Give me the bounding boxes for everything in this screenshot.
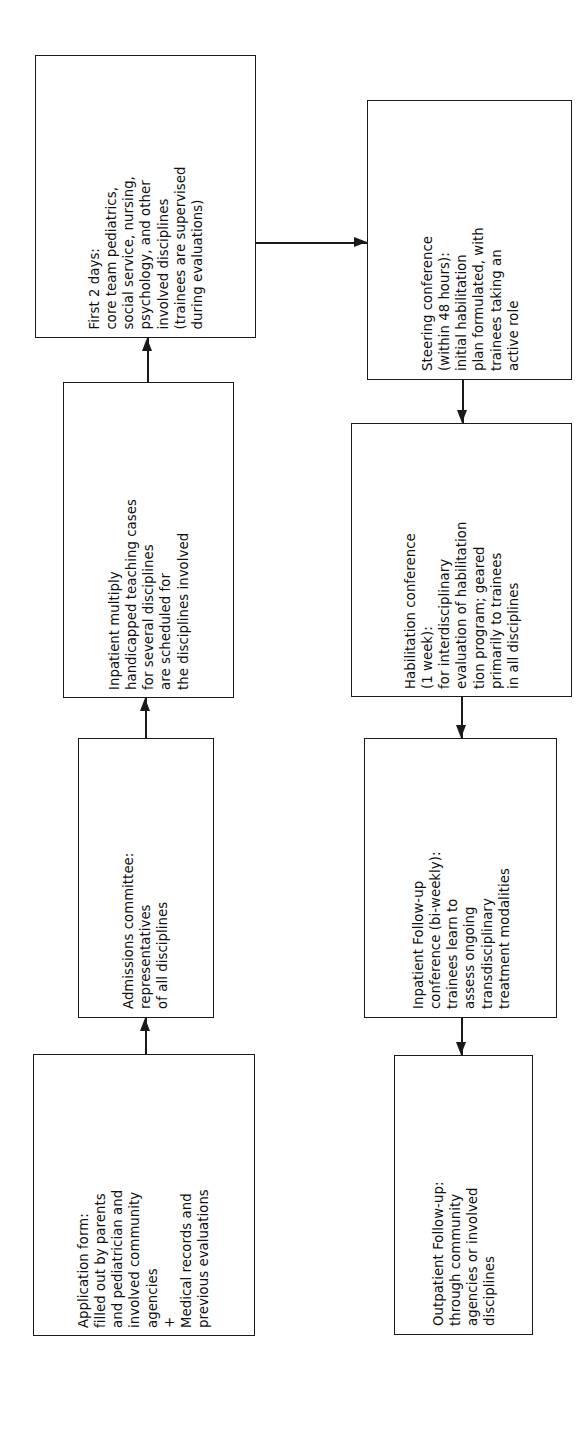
- admissions-committee-label: Admissions committee: representatives of…: [120, 747, 171, 1009]
- arrowhead-inpatient-to-outpatient-follow-up-icon: [456, 1042, 466, 1055]
- steering-conference-label: Steering conference (within 48 hours): i…: [418, 109, 521, 371]
- outpatient-follow-up-box: Outpatient Follow-up: through community …: [394, 1055, 533, 1335]
- arrowhead-steering-to-habilitation-icon: [457, 410, 467, 423]
- steering-conference-box: Steering conference (within 48 hours): i…: [367, 100, 572, 380]
- inpatient-teaching-cases-box: Inpatient multiply handicapped teaching …: [63, 382, 234, 698]
- application-form-box: Application form: filled out by parents …: [33, 1054, 255, 1336]
- habilitation-conference-box: Habilitation conference (1 week): for in…: [351, 423, 572, 697]
- connector-first-2-days-to-steering: [256, 242, 367, 244]
- flowchart-canvas: First 2 days: core team pediatrics, soci…: [0, 0, 576, 1446]
- admissions-committee-box: Admissions committee: representatives of…: [78, 738, 214, 1018]
- arrowhead-admissions-to-teaching-cases-icon: [140, 698, 150, 711]
- arrowhead-teaching-cases-to-first-2-days-icon: [142, 338, 152, 351]
- inpatient-teaching-cases-label: Inpatient multiply handicapped teaching …: [106, 390, 192, 690]
- arrowhead-first-2-days-to-steering-icon: [354, 237, 367, 247]
- inpatient-follow-up-label: Inpatient Follow-up conference (bi-weekl…: [409, 747, 512, 1009]
- first-2-days-box: First 2 days: core team pediatrics, soci…: [35, 55, 256, 338]
- habilitation-conference-label: Habilitation conference (1 week): for in…: [401, 431, 521, 689]
- first-2-days-label: First 2 days: core team pediatrics, soci…: [85, 64, 205, 329]
- outpatient-follow-up-label: Outpatient Follow-up: through community …: [429, 1064, 498, 1326]
- application-form-label: Application form: filled out by parents …: [75, 1062, 212, 1328]
- arrowhead-habilitation-to-inpatient-follow-up-icon: [456, 725, 466, 738]
- inpatient-follow-up-box: Inpatient Follow-up conference (bi-weekl…: [364, 738, 557, 1018]
- arrowhead-application-to-admissions-icon: [140, 1018, 150, 1031]
